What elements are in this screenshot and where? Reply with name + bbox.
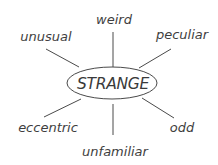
spoke-eccentric [44, 99, 81, 117]
spoke-odd [142, 98, 174, 118]
spoke-peculiar [139, 49, 171, 68]
word-odd: odd [170, 120, 195, 135]
word-unfamiliar: unfamiliar [82, 144, 149, 159]
word-unusual: unusual [20, 29, 72, 44]
word-weird: weird [96, 12, 133, 27]
word-web-diagram: STRANGE weird peculiar unusual eccentric… [0, 0, 218, 165]
center-word-label: STRANGE [77, 75, 149, 93]
diagram-canvas: STRANGE weird peculiar unusual eccentric… [0, 0, 218, 165]
center-node: STRANGE [67, 67, 157, 99]
spoke-unusual [46, 49, 79, 67]
word-peculiar: peculiar [155, 27, 210, 42]
word-eccentric: eccentric [18, 120, 78, 135]
